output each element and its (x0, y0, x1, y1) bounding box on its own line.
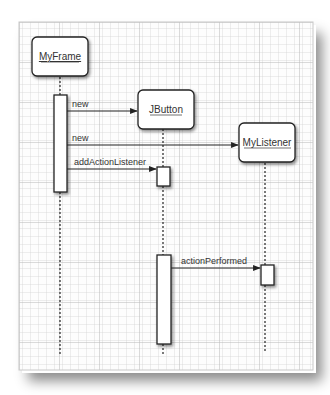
activation-jbutton-add (157, 167, 170, 186)
diagram-canvas: MyFrame JButton MyListener ne (0, 0, 330, 395)
participant-myframe: MyFrame (32, 37, 88, 76)
participant-label: MyFrame (39, 51, 82, 62)
message-label: addActionListener (74, 157, 146, 167)
participant-mylistener: MyListener (239, 123, 295, 162)
message-label: new (72, 99, 89, 109)
participant-label: MyListener (243, 137, 293, 148)
participant-jbutton: JButton (138, 90, 194, 129)
activation-mylistener (261, 265, 274, 285)
message-label: actionPerformed (181, 256, 247, 266)
sequence-diagram: MyFrame JButton MyListener ne (0, 0, 330, 395)
activation-myframe (54, 95, 67, 192)
participant-label: JButton (149, 104, 183, 115)
message-label: new (72, 133, 89, 143)
activation-jbutton-event (157, 255, 171, 344)
